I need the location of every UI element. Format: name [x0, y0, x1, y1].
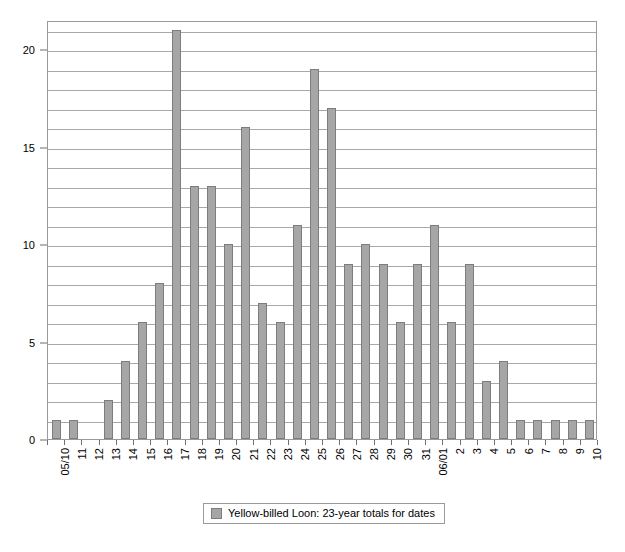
x-tick-label: 20	[231, 448, 242, 460]
x-tick-mark	[477, 440, 478, 445]
x-tick-label: 18	[197, 448, 208, 460]
y-tick-mark	[40, 245, 47, 246]
x-tick-label: 6	[524, 448, 535, 454]
bar	[155, 283, 164, 439]
x-axis: 05/1011121314151617181920212223242526272…	[47, 440, 597, 495]
bar	[551, 420, 560, 439]
x-tick-mark	[99, 440, 100, 445]
y-tick-label: 0	[29, 435, 35, 446]
bar	[568, 420, 577, 439]
x-tick-label: 27	[352, 448, 363, 460]
y-axis: 05101520	[0, 21, 47, 440]
bar	[207, 186, 216, 439]
bar	[585, 420, 594, 439]
x-tick-label: 3	[472, 448, 483, 454]
x-tick-mark	[322, 440, 323, 445]
bar	[172, 30, 181, 439]
x-tick-mark	[288, 440, 289, 445]
x-tick-mark	[236, 440, 237, 445]
x-tick-mark	[339, 440, 340, 445]
x-tick-mark	[356, 440, 357, 445]
bar	[413, 264, 422, 439]
bar	[361, 244, 370, 439]
bar	[121, 361, 130, 439]
x-tick-mark	[167, 440, 168, 445]
x-tick-label: 2	[455, 448, 466, 454]
x-tick-label: 26	[335, 448, 346, 460]
x-tick-mark	[270, 440, 271, 445]
bar	[52, 420, 61, 439]
x-tick-label: 05/10	[60, 448, 71, 476]
bar	[327, 108, 336, 439]
x-tick-mark	[253, 440, 254, 445]
x-tick-label: 5	[506, 448, 517, 454]
plot-area	[47, 21, 597, 440]
bar	[138, 322, 147, 439]
x-tick-label: 24	[300, 448, 311, 460]
x-tick-label: 30	[403, 448, 414, 460]
bar	[396, 322, 405, 439]
x-tick-label: 7	[541, 448, 552, 454]
x-tick-label: 11	[77, 448, 88, 459]
x-tick-label: 12	[94, 448, 105, 460]
x-tick-mark	[81, 440, 82, 445]
bar	[276, 322, 285, 439]
x-tick-label: 15	[146, 448, 157, 460]
bar	[69, 420, 78, 439]
bar	[430, 225, 439, 439]
y-tick-mark	[40, 50, 47, 51]
bar	[516, 420, 525, 439]
x-tick-label: 31	[421, 448, 432, 460]
x-tick-mark	[150, 440, 151, 445]
x-tick-mark	[597, 440, 598, 445]
x-tick-label: 29	[386, 448, 397, 460]
bar	[104, 400, 113, 439]
bar	[190, 186, 199, 439]
x-tick-mark	[374, 440, 375, 445]
x-tick-mark	[580, 440, 581, 445]
bar	[224, 244, 233, 439]
x-tick-label: 13	[111, 448, 122, 460]
bar	[293, 225, 302, 439]
x-tick-mark	[133, 440, 134, 445]
y-tick-label: 5	[29, 337, 35, 348]
y-tick-label: 15	[23, 142, 35, 153]
bar	[310, 69, 319, 439]
x-tick-label: 10	[592, 448, 603, 460]
x-tick-mark	[494, 440, 495, 445]
y-tick-mark	[40, 342, 47, 343]
bar	[447, 322, 456, 439]
x-tick-mark	[528, 440, 529, 445]
x-tick-label: 22	[266, 448, 277, 460]
bars-layer	[48, 22, 596, 439]
x-tick-mark	[408, 440, 409, 445]
x-tick-mark	[305, 440, 306, 445]
x-tick-mark	[442, 440, 443, 445]
chart-page: 05101520 05/1011121314151617181920212223…	[0, 0, 625, 552]
x-tick-label: 16	[163, 448, 174, 460]
bar	[258, 303, 267, 439]
x-tick-mark	[116, 440, 117, 445]
x-tick-mark	[391, 440, 392, 445]
x-tick-mark	[511, 440, 512, 445]
x-tick-label: 17	[180, 448, 191, 460]
x-tick-label: 25	[317, 448, 328, 460]
bar	[241, 127, 250, 439]
bar	[482, 381, 491, 439]
x-tick-label: 23	[283, 448, 294, 460]
x-tick-label: 9	[575, 448, 586, 454]
x-tick-mark	[219, 440, 220, 445]
x-tick-label: 4	[489, 448, 500, 454]
x-tick-mark	[425, 440, 426, 445]
x-tick-mark	[202, 440, 203, 445]
y-tick-label: 20	[23, 45, 35, 56]
x-tick-mark	[47, 440, 48, 445]
bar	[533, 420, 542, 439]
x-tick-label: 19	[214, 448, 225, 460]
x-tick-mark	[185, 440, 186, 445]
legend-label: Yellow-billed Loon: 23-year totals for d…	[228, 507, 435, 519]
bar	[465, 264, 474, 439]
bar	[344, 264, 353, 439]
x-tick-label: 28	[369, 448, 380, 460]
legend-swatch-icon	[211, 508, 222, 519]
